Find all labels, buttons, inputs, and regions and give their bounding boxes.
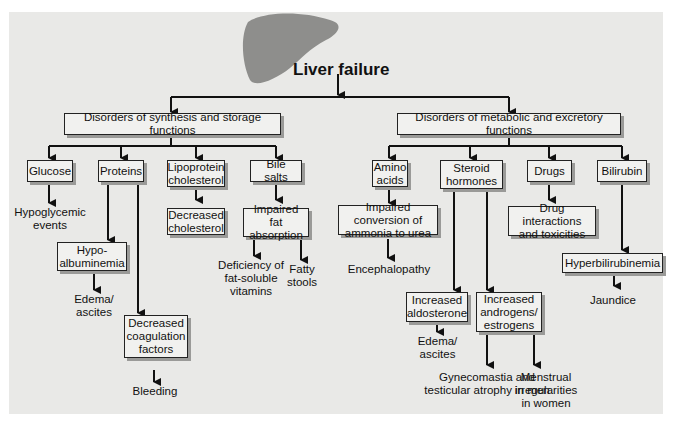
amino-acids-box: Amino acids [372,160,408,187]
bleeding-label: Bleeding [128,385,182,398]
fatty-stools-label: Fatty stools [287,263,317,289]
impaired-conversion-box: Impaired conversion of ammonia to urea [338,205,438,235]
increased-aldosterone-box: Increased aldosterone [406,292,468,322]
impaired-fat-absorption-box: Impaired fat absorption [243,208,309,237]
jaundice-label: Jaundice [588,294,638,307]
steroid-hormones-box: Steroid hormones [440,160,503,189]
coagulation-box: Decreased coagulation factors [124,315,188,358]
drugs-box: Drugs [527,160,572,182]
hyperbilirubinemia-box: Hyperbilirubinemia [562,253,663,273]
edema-ascites-left-label: Edema/ ascites [70,293,118,319]
decreased-cholesterol-box: Decreased cholesterol [167,208,225,235]
lipoprotein-box: Lipoprotein cholesterol [167,160,225,187]
metabolic-excretory-box: Disorders of metabolic and excretory fun… [397,113,621,135]
synthesis-storage-box: Disorders of synthesis and storage funct… [64,113,281,135]
bilirubin-box: Bilirubin [597,160,647,182]
increased-androgens-box: Increased androgens/ estrogens [476,292,542,332]
drug-interactions-box: Drug interactions and toxicities [508,206,596,236]
diagram-title: Liver failure [293,60,389,80]
hypoalbuminemia-box: Hypo- albuminemia [57,242,127,271]
fat-soluble-vitamins-label: Deficiency of fat-soluble vitamins [216,259,286,298]
proteins-box: Proteins [98,160,144,182]
edema-ascites-right-label: Edema/ ascites [415,335,460,361]
hypo-line2: albuminemia [59,257,124,270]
menstrual-label: Menstrual irregularities in women [514,371,578,410]
encephalopathy-label: Encephalopathy [344,263,434,276]
hypo-line1: Hypo- [77,244,108,257]
glucose-box: Glucose [27,160,73,182]
bile-salts-box: Bile salts [250,160,302,182]
hypoglycemic-label: Hypoglycemic events [14,206,86,232]
